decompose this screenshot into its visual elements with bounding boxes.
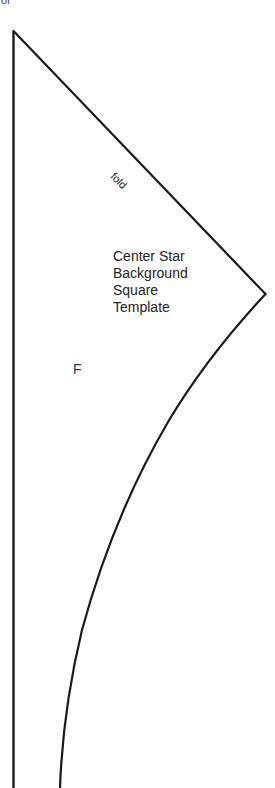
curved-edge <box>60 294 266 788</box>
title-line-3: Square <box>113 282 188 299</box>
title-line-2: Background <box>113 265 188 282</box>
title-line-1: Center Star <box>113 248 188 265</box>
template-title: Center Star Background Square Template <box>113 248 188 316</box>
pattern-template-page: of fold Center Star Background Square Te… <box>0 0 275 788</box>
template-outline <box>0 0 275 788</box>
piece-letter: F <box>73 361 82 377</box>
title-line-4: Template <box>113 299 188 316</box>
